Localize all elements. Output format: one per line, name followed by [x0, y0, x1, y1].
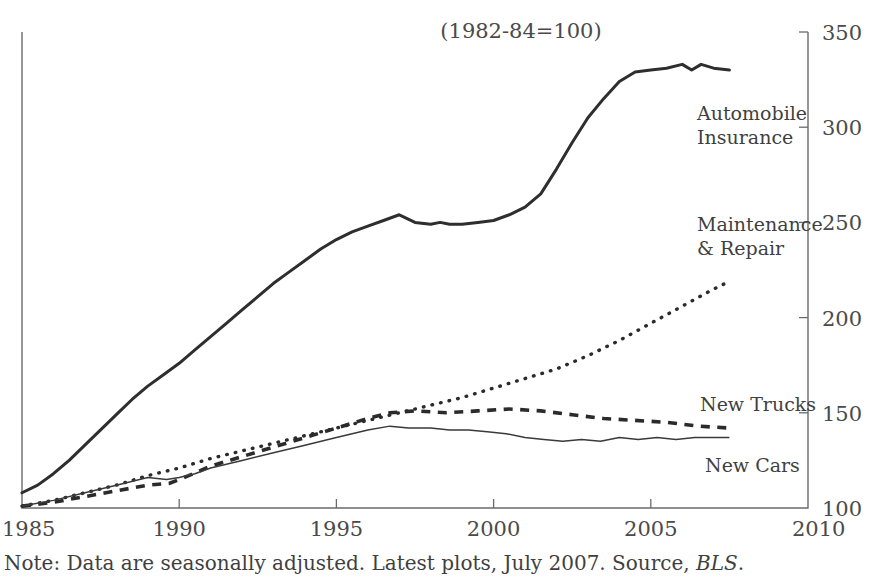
x-axis-ticks [179, 499, 651, 508]
label-new-trucks: New Trucks [700, 393, 816, 415]
x-axis-tick-labels: 198519901995200020052010 [2, 517, 845, 541]
y-tick-label: 350 [822, 21, 862, 45]
y-tick-label: 250 [822, 211, 862, 235]
chart-subtitle: (1982-84=100) [440, 19, 601, 43]
cpi-line-chart: (1982-84=100) 100150200250300350 1985199… [0, 0, 869, 582]
x-tick-label: 2010 [792, 517, 845, 541]
x-tick-label: 2005 [624, 517, 677, 541]
footnote: Note: Data are seasonally adjusted. Late… [4, 551, 744, 575]
y-tick-label: 200 [822, 307, 862, 331]
series-maintenance-repair [22, 281, 729, 506]
series-new-cars [22, 426, 729, 506]
footnote-suffix: . [738, 551, 744, 575]
label-maintenance-repair-line1: Maintenance [697, 213, 823, 235]
x-tick-label: 1985 [2, 517, 55, 541]
y-tick-label: 300 [822, 116, 862, 140]
data-series-group [22, 64, 729, 506]
label-automobile-insurance-line1: Automobile [696, 102, 807, 124]
y-axis-tick-labels: 100150200250300350 [822, 21, 862, 521]
x-tick-label: 1990 [152, 517, 205, 541]
figure-container: (1982-84=100) 100150200250300350 1985199… [0, 0, 869, 582]
series-new-trucks [22, 409, 729, 506]
y-tick-label: 150 [822, 402, 862, 426]
x-tick-label: 2000 [467, 517, 520, 541]
label-maintenance-repair-line2: & Repair [697, 237, 785, 259]
footnote-source: BLS [696, 551, 738, 575]
axis-frame [22, 32, 808, 508]
x-tick-label: 1995 [310, 517, 363, 541]
label-new-cars: New Cars [705, 454, 800, 476]
label-automobile-insurance-line2: Insurance [697, 126, 793, 148]
footnote-prefix: Note: Data are seasonally adjusted. Late… [4, 551, 696, 575]
